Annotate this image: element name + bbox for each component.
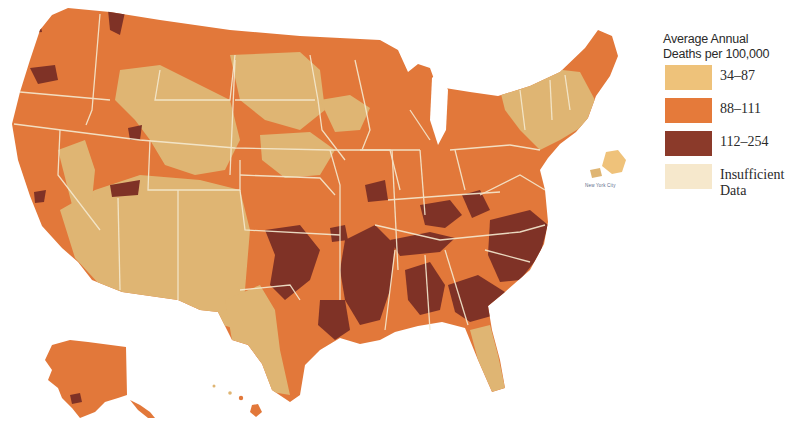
- legend-item-low: 34–87: [663, 65, 796, 95]
- region-high-wash-nw: [30, 22, 42, 33]
- hawaii: [213, 385, 263, 418]
- region-low-florida: [470, 325, 505, 392]
- legend-item-high: 112–254: [663, 131, 796, 161]
- legend-swatch-insufficient: [665, 164, 712, 189]
- legend-item-insufficient: Insufficient Data: [663, 164, 796, 200]
- legend-swatch-low: [665, 65, 712, 90]
- legend-swatch-high: [665, 131, 712, 156]
- nyc-inset-label: New York City: [585, 183, 616, 188]
- legend-swatch-mid: [665, 98, 712, 123]
- alaska: [45, 340, 155, 418]
- map-legend: Average Annual Deaths per 100,000 34–87 …: [663, 32, 796, 200]
- legend-item-mid: 88–111: [663, 98, 796, 128]
- region-high-carolinas: [488, 210, 548, 282]
- region-high-arkansas: [330, 225, 348, 242]
- legend-title: Average Annual Deaths per 100,000: [663, 32, 796, 62]
- nyc-inset: [590, 150, 626, 178]
